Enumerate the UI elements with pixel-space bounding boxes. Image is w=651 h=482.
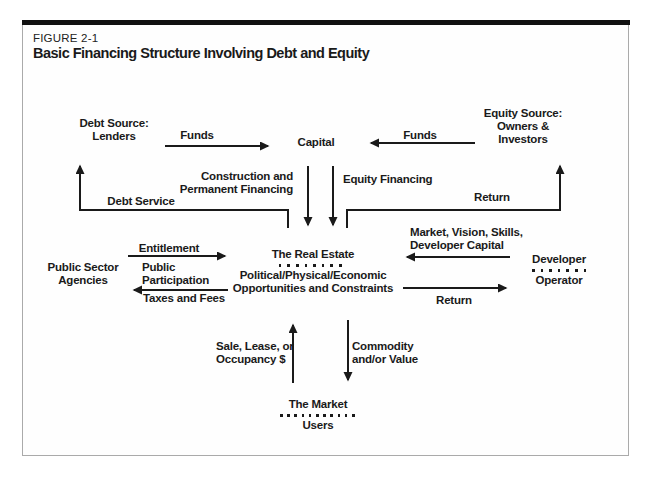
equity-source-line1: Equity Source: — [484, 107, 562, 120]
node-debt-source: Debt Source: Lenders — [79, 117, 148, 143]
real-estate-title: The Real Estate — [233, 248, 393, 261]
dotted-divider — [280, 414, 356, 417]
flow-label-taxes-fees: Taxes and Fees — [143, 292, 225, 305]
flow-label-return-to-developer: Return — [436, 294, 472, 307]
real-estate-sub1: Political/Physical/Economic — [233, 269, 393, 282]
equity-source-line3: Investors — [484, 133, 562, 146]
flow-label-funds-left: Funds — [180, 129, 214, 142]
construction-line2: Permanent Financing — [180, 183, 293, 196]
market-vision-line1: Market, Vision, Skills, — [410, 226, 523, 239]
sale-lease-line2: Occupancy $ — [216, 353, 294, 366]
public-participation-line1: Public — [142, 261, 209, 274]
commodity-line2: and/or Value — [352, 353, 418, 366]
market-vision-line2: Developer Capital — [410, 239, 523, 252]
figure-page: FIGURE 2-1 Basic Financing Structure Inv… — [0, 0, 651, 482]
debt-source-line2: Lenders — [79, 130, 148, 143]
real-estate-sub2: Opportunities and Constraints — [233, 282, 393, 295]
flow-label-sale-lease: Sale, Lease, or Occupancy $ — [216, 340, 294, 366]
node-public-sector: Public Sector Agencies — [48, 261, 119, 287]
node-developer-operator: Developer Operator — [532, 253, 586, 287]
operator-line: Operator — [532, 274, 586, 287]
sale-lease-line1: Sale, Lease, or — [216, 340, 294, 353]
public-sector-line1: Public Sector — [48, 261, 119, 274]
construction-line1: Construction and — [180, 170, 293, 183]
flow-label-entitlement: Entitlement — [139, 242, 199, 255]
node-real-estate: The Real Estate Political/Physical/Econo… — [233, 248, 393, 295]
users-line: Users — [280, 419, 356, 432]
flow-label-market-vision: Market, Vision, Skills, Developer Capita… — [410, 226, 523, 252]
dotted-divider — [532, 269, 586, 272]
market-line: The Market — [280, 398, 356, 411]
flow-label-commodity-value: Commodity and/or Value — [352, 340, 418, 366]
flow-label-return-to-equity: Return — [474, 191, 510, 204]
node-capital: Capital — [298, 136, 335, 149]
flow-label-construction-financing: Construction and Permanent Financing — [180, 170, 293, 196]
flow-label-funds-right: Funds — [403, 129, 437, 142]
commodity-line1: Commodity — [352, 340, 418, 353]
public-participation-line2: Participation — [142, 274, 209, 287]
flow-label-public-participation: Public Participation — [142, 261, 209, 287]
node-equity-source: Equity Source: Owners & Investors — [484, 107, 562, 146]
flow-label-debt-service: Debt Service — [107, 195, 174, 208]
debt-source-line1: Debt Source: — [79, 117, 148, 130]
flow-label-equity-financing: Equity Financing — [343, 173, 432, 186]
node-market-users: The Market Users — [280, 398, 356, 432]
dotted-divider — [279, 264, 347, 267]
developer-line: Developer — [532, 253, 586, 266]
public-sector-line2: Agencies — [48, 274, 119, 287]
equity-source-line2: Owners & — [484, 120, 562, 133]
